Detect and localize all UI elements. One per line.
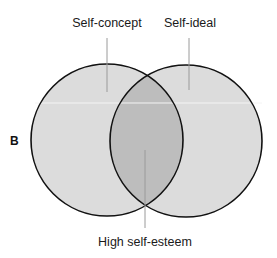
self-ideal-label: Self-ideal — [164, 16, 216, 30]
panel-label: B — [10, 134, 19, 148]
high-self-esteem-label: High self-esteem — [98, 235, 192, 249]
self-concept-label: Self-concept — [72, 16, 142, 30]
venn-diagram: Self-concept Self-ideal High self-esteem… — [0, 0, 277, 258]
